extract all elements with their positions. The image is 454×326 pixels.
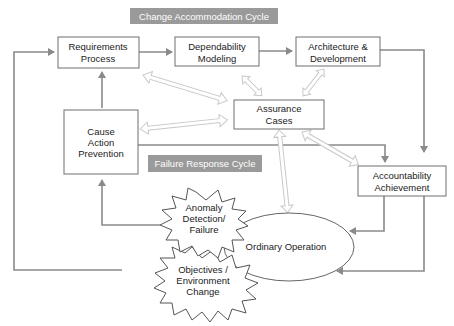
assurance-cases-node: Assurance Cases xyxy=(234,100,324,129)
accountability-label-line1: Accountability xyxy=(373,170,432,181)
anomaly-label-line2: Detection/ xyxy=(183,213,226,224)
change-banner-label: Change Accommodation Cycle xyxy=(139,11,269,22)
accountability-label-line2: Achievement xyxy=(375,182,430,193)
arrow-arch-to-accountability xyxy=(380,50,424,152)
architecture-label-line2: Development xyxy=(310,53,366,64)
double-arrow-icon xyxy=(141,69,229,106)
dependability-modeling-node: Dependability Modeling xyxy=(175,37,259,66)
anomaly-label-line1: Anomaly xyxy=(186,202,223,213)
arrow-accountability-to-ordinary xyxy=(350,196,384,231)
double-arrow-icon xyxy=(273,129,294,213)
objectives-label-line3: Change xyxy=(186,286,219,297)
cause-label-line3: Prevention xyxy=(78,148,123,159)
accountability-achievement-node: Accountability Achievement xyxy=(358,166,446,196)
dependability-label-line2: Modeling xyxy=(198,53,237,64)
cause-action-prevention-node: Cause Action Prevention xyxy=(64,110,138,174)
assurance-label-line2: Cases xyxy=(266,115,293,126)
requirements-process-node: Requirements Process xyxy=(58,37,139,68)
double-arrow-icon xyxy=(299,66,328,99)
requirements-label-line1: Requirements xyxy=(68,41,127,52)
change-accommodation-banner: Change Accommodation Cycle xyxy=(130,8,278,24)
cause-label-line1: Cause xyxy=(87,126,114,137)
assurance-links xyxy=(139,66,361,213)
architecture-development-node: Architecture & Development xyxy=(296,37,380,66)
failure-banner-label: Failure Response Cycle xyxy=(155,158,256,169)
dependability-label-line1: Dependability xyxy=(188,41,246,52)
failure-response-banner: Failure Response Cycle xyxy=(148,155,262,172)
requirements-label-line2: Process xyxy=(81,53,116,64)
double-arrow-icon xyxy=(238,72,265,99)
arrow-anomaly-to-cause xyxy=(102,180,160,225)
ordinary-operation-label: Ordinary Operation xyxy=(246,241,327,252)
diagram-canvas: Change Accommodation Cycle Failure Respo… xyxy=(0,0,454,326)
assurance-label-line1: Assurance xyxy=(257,103,302,114)
architecture-label-line1: Architecture & xyxy=(308,41,368,52)
objectives-label-line1: Objectives / xyxy=(178,264,228,275)
objectives-label-line2: Environment xyxy=(176,275,230,286)
double-arrow-icon xyxy=(139,114,228,135)
anomaly-label-line3: Failure xyxy=(189,224,218,235)
cause-label-line2: Action xyxy=(88,137,114,148)
double-arrow-icon xyxy=(299,127,361,170)
